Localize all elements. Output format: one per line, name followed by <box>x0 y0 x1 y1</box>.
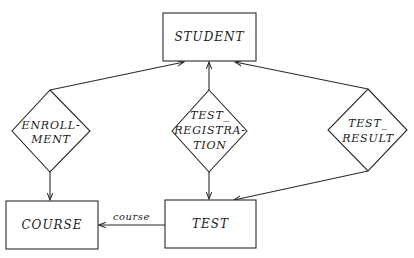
edge-label-course: course <box>113 211 150 222</box>
relationship-test-registration-label-line1: TEST_ <box>190 109 230 122</box>
entity-student-label: STUDENT <box>174 30 244 44</box>
relationship-test-registration: TEST_ REGISTRA- TION <box>172 90 247 172</box>
entity-student: STUDENT <box>163 13 256 61</box>
relationship-test-registration-label-line3: TION <box>193 139 227 152</box>
edge-enrollment-student <box>50 62 184 90</box>
entity-course: COURSE <box>6 201 98 249</box>
relationship-test-result-label-line2: RESULT <box>341 132 395 145</box>
edge-test-result-test <box>234 171 368 200</box>
relationship-enrollment-label-line2: MENT <box>30 133 71 146</box>
entity-course-label: COURSE <box>21 218 82 232</box>
entity-test: TEST <box>165 200 256 248</box>
edge-test-result-student <box>235 62 368 89</box>
entity-test-label: TEST <box>192 217 229 231</box>
relationship-test-result-label-line1: TEST_ <box>348 117 388 130</box>
er-diagram: course STUDENT COURSE TEST ENROLL- MENT … <box>0 0 414 258</box>
relationship-test-result-diamond <box>328 89 407 171</box>
relationship-enrollment-label-line1: ENROLL- <box>21 119 81 132</box>
relationship-enrollment: ENROLL- MENT <box>12 90 90 172</box>
relationship-test-registration-label-line2: REGISTRA- <box>173 124 245 137</box>
relationship-test-result: TEST_ RESULT <box>328 89 407 171</box>
